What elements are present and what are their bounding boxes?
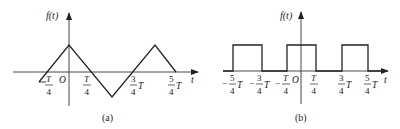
tick-label-three-quarter-b: 3 4 T [338,73,352,96]
svg-text:T: T [283,73,289,83]
svg-text:5: 5 [365,73,370,83]
svg-text:5: 5 [169,74,174,84]
svg-text:4: 4 [339,86,344,96]
svg-text:−: − [275,78,280,88]
origin-label-b: O [292,75,299,85]
tick-label-three-quarter-a: 3 4 T [130,74,144,97]
svg-text:−: − [249,78,254,88]
svg-text:4: 4 [169,87,174,97]
y-axis-label-b: f(t) [280,10,293,22]
tick-label-five-quarter-b: 5 4 T [364,73,378,96]
svg-text:4: 4 [47,87,52,97]
svg-text:4: 4 [365,86,370,96]
figure: f(t) t O T 4 T 4 3 4 T 5 4 T [0,0,400,129]
svg-text:4: 4 [312,86,317,96]
svg-text:4: 4 [230,86,235,96]
tick-label-five-quarter-a: 5 4 T [168,74,182,97]
svg-text:4: 4 [131,87,136,97]
tick-label-quarter-a: T 4 [83,74,91,97]
svg-text:T: T [372,80,378,90]
svg-text:T: T [138,81,144,91]
y-axis-label-a: f(t) [46,10,59,22]
svg-text:4: 4 [284,86,289,96]
svg-text:−: − [222,78,227,88]
tick-label-neg-three-quarter-b: − 3 4 T [249,73,270,96]
svg-text:T: T [346,80,352,90]
svg-text:T: T [237,80,243,90]
diagram-canvas: f(t) t O T 4 T 4 3 4 T 5 4 T [0,0,400,129]
panel-a: f(t) t O T 4 T 4 3 4 T 5 4 T [13,10,198,124]
tick-label-neg-five-quarter-b: − 5 4 T [222,73,243,96]
tick-label-quarter-b: T 4 [310,73,318,96]
svg-text:T: T [84,74,90,84]
tick-label-neg-quarter-a: T 4 [45,74,53,97]
svg-text:T: T [311,73,317,83]
caption-b: (b) [295,112,307,124]
svg-text:T: T [264,80,270,90]
panel-b: f(t) t O − 5 4 T − 3 4 T − T 4 T [222,10,388,124]
svg-text:4: 4 [85,87,90,97]
tick-label-neg-quarter-b: − T 4 [275,73,290,96]
caption-a: (a) [102,112,113,124]
x-axis-label-b: t [384,74,387,85]
pulse-train-waveform [223,45,382,71]
svg-text:3: 3 [131,74,136,84]
x-axis-label-a: t [191,74,194,85]
triangle-waveform [39,45,176,97]
svg-text:T: T [46,74,52,84]
origin-label-a: O [59,75,66,85]
svg-text:4: 4 [257,86,262,96]
svg-text:3: 3 [257,73,262,83]
svg-text:5: 5 [230,73,235,83]
svg-text:3: 3 [339,73,344,83]
svg-text:T: T [176,81,182,91]
